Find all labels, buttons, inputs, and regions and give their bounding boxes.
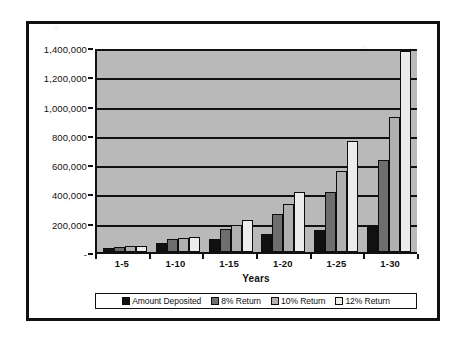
bar xyxy=(367,226,378,252)
legend-item: Amount Deposited xyxy=(122,296,201,306)
bar xyxy=(325,192,336,252)
y-axis-tick-label: 1,200,000 xyxy=(44,73,87,84)
x-axis-tick-label: 1-25 xyxy=(310,258,364,274)
y-axis-tick-mark xyxy=(88,48,93,50)
bar-group xyxy=(156,49,200,252)
chart-inner: 1,400,0001,200,0001,000,000800,000600,00… xyxy=(29,24,437,318)
bar xyxy=(125,246,136,252)
bar xyxy=(209,239,220,252)
bar xyxy=(231,225,242,252)
y-axis-tick-label: 1,000,000 xyxy=(44,102,87,113)
y-axis-tick-label: 1,400,000 xyxy=(44,44,87,55)
bar xyxy=(103,248,114,252)
bar xyxy=(314,230,325,252)
legend-label: Amount Deposited xyxy=(132,296,201,306)
legend-label: 10% Return xyxy=(281,296,325,306)
y-axis-tick-label: 400,000 xyxy=(52,190,87,201)
bar-group xyxy=(314,49,358,252)
x-axis-tick-mark xyxy=(256,254,258,259)
y-axis-tick-label: 200,000 xyxy=(52,219,87,230)
legend-swatch-icon xyxy=(335,297,343,305)
legend-swatch-icon xyxy=(211,297,219,305)
y-axis-tick-mark xyxy=(88,253,93,255)
y-axis-tick-mark xyxy=(88,77,93,79)
bar xyxy=(189,237,200,252)
y-axis-tick-mark xyxy=(88,136,93,138)
x-axis-tick-mark xyxy=(95,254,97,259)
x-axis-tick-mark xyxy=(310,254,312,259)
legend-item: 8% Return xyxy=(211,296,261,306)
bar xyxy=(400,51,411,252)
bar xyxy=(336,171,347,252)
legend-swatch-icon xyxy=(122,297,130,305)
plot-area xyxy=(95,49,417,254)
y-axis-tick-mark xyxy=(88,107,93,109)
legend-item: 12% Return xyxy=(335,296,389,306)
x-axis: 1-51-101-151-201-251-30 xyxy=(95,258,417,274)
y-axis-tick-mark xyxy=(88,165,93,167)
bar xyxy=(242,220,253,252)
bar xyxy=(272,214,283,252)
x-axis-tick-label: 1-30 xyxy=(363,258,417,274)
y-axis-tick-mark xyxy=(88,194,93,196)
x-axis-tick-mark xyxy=(417,254,419,259)
y-axis-tick-mark xyxy=(88,224,93,226)
bar xyxy=(294,192,305,252)
bar xyxy=(261,234,272,252)
chart-legend: Amount Deposited8% Return10% Return12% R… xyxy=(95,293,417,309)
legend-item: 10% Return xyxy=(271,296,325,306)
x-axis-tick-mark xyxy=(149,254,151,259)
bar xyxy=(156,243,167,252)
legend-label: 12% Return xyxy=(345,296,389,306)
x-axis-tick-label: 1-20 xyxy=(256,258,310,274)
bar xyxy=(220,229,231,252)
bar xyxy=(167,239,178,252)
bar-group xyxy=(103,49,147,252)
chart-frame: 1,400,0001,200,0001,000,000800,000600,00… xyxy=(26,21,440,321)
bar xyxy=(136,246,147,252)
bar-group xyxy=(367,49,411,252)
bar xyxy=(114,247,125,252)
bar-group xyxy=(209,49,253,252)
bar xyxy=(378,160,389,252)
legend-label: 8% Return xyxy=(221,296,261,306)
y-axis-tick-label: 800,000 xyxy=(52,131,87,142)
bar-group xyxy=(261,49,305,252)
bar xyxy=(178,238,189,252)
y-axis: 1,400,0001,200,0001,000,000800,000600,00… xyxy=(29,49,93,254)
bar xyxy=(283,204,294,252)
bar xyxy=(389,117,400,252)
x-axis-title: Years xyxy=(95,273,417,284)
x-axis-tick-mark xyxy=(363,254,365,259)
x-axis-tick-label: 1-5 xyxy=(95,258,149,274)
y-axis-tick-label: 600,000 xyxy=(52,161,87,172)
x-axis-tick-label: 1-10 xyxy=(149,258,203,274)
x-axis-tick-mark xyxy=(202,254,204,259)
x-axis-tick-label: 1-15 xyxy=(202,258,256,274)
bar xyxy=(347,141,358,252)
bar-groups xyxy=(97,49,417,252)
y-axis-tick-label: - xyxy=(84,249,87,260)
legend-swatch-icon xyxy=(271,297,279,305)
